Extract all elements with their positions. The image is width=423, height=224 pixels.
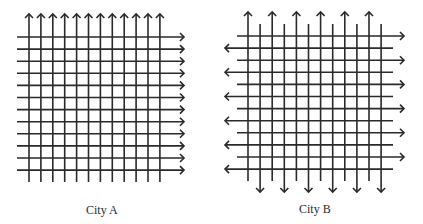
city-a-label: City A [86, 203, 118, 218]
city-b-street-grid [225, 12, 404, 192]
city-a-street-grid [17, 14, 184, 182]
city-b-label: City B [299, 202, 331, 217]
street-grid-diagram [0, 0, 423, 224]
